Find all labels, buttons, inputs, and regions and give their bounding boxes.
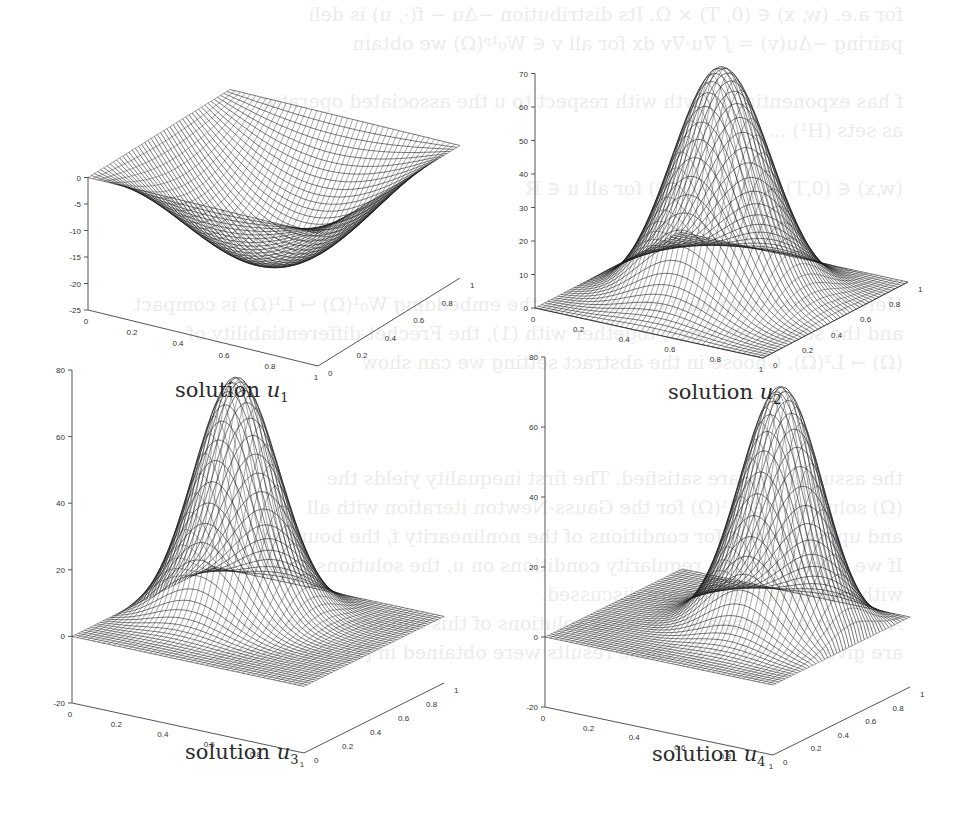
z-tick-label: 20 [519, 237, 528, 246]
y-tick-label: 0.8 [426, 700, 438, 709]
z-tick-label: 60 [519, 103, 528, 112]
y-tick-label: 0.8 [442, 299, 454, 308]
y-tick-label: 0.6 [860, 315, 872, 324]
caption-variable: u [744, 742, 758, 766]
z-tick-label: 40 [529, 493, 538, 502]
x-tick-label: 0.2 [111, 720, 123, 729]
x-axis [88, 310, 318, 366]
z-tick-label: 20 [529, 563, 538, 572]
z-tick-label: 50 [519, 137, 528, 146]
mesh-lines [545, 386, 910, 685]
caption-variable: u [267, 378, 281, 402]
surface-mesh-u1: -25-20-15-10-5000.20.40.60.8100.20.40.60… [20, 25, 470, 365]
z-tick-label: 0 [61, 632, 66, 641]
z-tick-label: 60 [529, 423, 538, 432]
z-tick-label: -20 [69, 280, 81, 289]
caption-subscript: 4 [757, 754, 765, 769]
y-tick-label: 0.2 [802, 346, 814, 355]
y-tick-label: 0.2 [810, 744, 822, 753]
caption-word: solution [652, 742, 737, 766]
z-tick-label: 80 [56, 366, 65, 375]
x-tick-label: 1 [759, 365, 764, 374]
surface-plot-u2: 01020304050607000.20.40.60.8100.20.40.60… [495, 25, 945, 365]
y-tick-label: 0.4 [838, 731, 850, 740]
y-tick-label: 0 [773, 361, 778, 370]
caption-u4: solution u4 [652, 742, 765, 769]
z-tick-label: -15 [69, 253, 81, 262]
y-tick-label: 0.4 [370, 728, 382, 737]
caption-subscript: 3 [290, 752, 298, 767]
bleed-line [0, 406, 963, 435]
caption-word: solution [668, 380, 753, 404]
x-tick-label: 0 [541, 714, 546, 723]
caption-subscript: 1 [280, 390, 288, 405]
caption-u2: solution u2 [668, 380, 781, 407]
x-tick-label: 0.2 [573, 325, 585, 334]
caption-word: solution [185, 740, 270, 764]
y-tick-label: 0.8 [893, 704, 905, 713]
x-tick-label: 0.8 [710, 355, 722, 364]
mesh-lines [88, 90, 460, 268]
x-tick-label: 0.2 [583, 724, 595, 733]
z-tick-label: 20 [56, 566, 65, 575]
x-tick-label: 0.8 [264, 362, 276, 371]
z-tick-label: 10 [519, 271, 528, 280]
z-tick-label: 80 [529, 353, 538, 362]
z-tick-label: 40 [519, 170, 528, 179]
x-tick-label: 1 [769, 762, 774, 771]
z-tick-label: 40 [56, 499, 65, 508]
x-tick-label: 0.2 [126, 328, 138, 337]
x-tick-label: 0.4 [157, 730, 169, 739]
x-tick-label: 0.4 [629, 733, 641, 742]
x-tick-label: 1 [314, 373, 319, 382]
x-tick-label: 0 [84, 317, 89, 326]
x-tick-label: 0 [531, 315, 536, 324]
surface-mesh-u2: 01020304050607000.20.40.60.8100.20.40.60… [495, 25, 945, 365]
y-tick-label: 0.2 [342, 742, 354, 751]
y-tick-label: 0.4 [831, 331, 843, 340]
z-tick-label: -25 [69, 306, 81, 315]
y-tick-label: 0 [314, 756, 319, 765]
caption-variable: u [277, 740, 291, 764]
y-tick-label: 0.6 [398, 714, 410, 723]
z-tick-label: 60 [56, 433, 65, 442]
y-tick-label: 1 [470, 281, 475, 290]
z-tick-label: 70 [519, 70, 528, 79]
z-tick-label: 0 [77, 174, 82, 183]
x-tick-label: 0 [68, 710, 73, 719]
surface-plot-u1: -25-20-15-10-5000.20.40.60.8100.20.40.60… [20, 25, 470, 365]
y-tick-label: 1 [918, 285, 923, 294]
y-tick-label: 1 [920, 690, 925, 699]
y-tick-label: 0.2 [356, 351, 368, 360]
x-tick-label: 0.6 [664, 345, 676, 354]
x-tick-label: 1 [300, 760, 305, 769]
x-tick-label: 0.4 [172, 339, 184, 348]
y-axis [304, 683, 444, 753]
y-axis [318, 278, 460, 366]
z-tick-label: -20 [526, 703, 538, 712]
caption-u3: solution u3 [185, 740, 298, 767]
y-tick-label: 0 [783, 758, 788, 767]
z-tick-label: -10 [69, 227, 81, 236]
mesh-lines [72, 377, 444, 686]
x-tick-label: 0.6 [218, 351, 230, 360]
bleed-line [0, 435, 963, 464]
y-tick-label: 0.4 [385, 334, 397, 343]
z-tick-label: 30 [519, 204, 528, 213]
mesh-lines [535, 67, 908, 358]
z-tick-label: 0 [534, 633, 539, 642]
z-tick-label: -20 [53, 699, 65, 708]
x-tick-label: 0.4 [619, 335, 631, 344]
bleed-line [0, 377, 963, 406]
z-tick-label: -5 [74, 200, 82, 209]
z-tick-label: 0 [524, 304, 529, 313]
y-tick-label: 0.8 [889, 300, 901, 309]
y-tick-label: 0.6 [413, 316, 425, 325]
y-axis [773, 687, 910, 755]
y-tick-label: 1 [454, 686, 459, 695]
y-tick-label: 0.6 [865, 717, 877, 726]
y-tick-label: 0 [328, 369, 333, 378]
